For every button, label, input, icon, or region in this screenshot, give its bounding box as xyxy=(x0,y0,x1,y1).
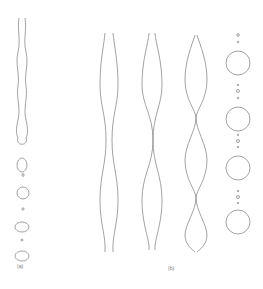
panel-a-jet xyxy=(17,18,28,144)
panel-a-drops xyxy=(15,158,29,261)
panel-b-drops xyxy=(226,34,250,234)
panel-b-jet-2 xyxy=(142,33,162,250)
jet-breakup-diagram xyxy=(0,0,263,289)
panel-a-label: (a) xyxy=(17,263,23,269)
panel-b-jet-3 xyxy=(185,35,207,252)
panel-b-jet-1 xyxy=(100,33,118,252)
panel-b-label: (b) xyxy=(168,265,174,271)
